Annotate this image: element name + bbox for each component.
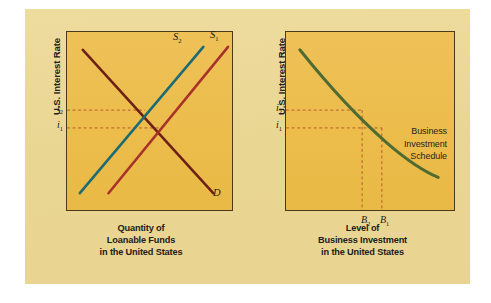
annotation-business-investment-schedule: Business Investment Schedule [351, 125, 447, 163]
annotation-line-3: Schedule [351, 150, 447, 163]
figure-panel: U.S. Interest Rate i2 i1 S2 S1 D Quant [25, 9, 470, 284]
chart-loanable-funds: U.S. Interest Rate i2 i1 S2 S1 D Quant [25, 9, 245, 284]
caption-loanable-funds: Quantity of Loanable Funds in the United… [31, 222, 251, 259]
chart-business-investment: U.S. Interest Rate i2 i1 Business Invest… [247, 9, 470, 284]
curve-label-s2: S2 [173, 31, 182, 44]
y-tick-i2-business-investment: i2 [260, 102, 282, 115]
curve-label-d: D [213, 187, 221, 198]
caption-line-1: Quantity of [31, 222, 251, 234]
y-tick-i1-business-investment: i1 [260, 119, 282, 132]
annotation-line-1: Business [351, 125, 447, 138]
caption-line-2: Business Investment [251, 234, 474, 246]
caption-line-1: Level of [251, 222, 474, 234]
caption-line-2: Loanable Funds [31, 234, 251, 246]
y-tick-i1-loanable-funds: i1 [41, 119, 63, 132]
plot-area-business-investment [285, 31, 455, 211]
caption-business-investment: Level of Business Investment in the Unit… [251, 222, 474, 259]
plot-svg-business-investment [286, 32, 454, 210]
caption-line-3: in the United States [251, 246, 474, 258]
curve-demand [83, 50, 213, 193]
curve-label-s1: S1 [210, 29, 219, 42]
plot-svg-loanable-funds [67, 32, 232, 210]
y-tick-i2-loanable-funds: i2 [41, 102, 63, 115]
caption-line-3: in the United States [31, 246, 251, 258]
annotation-line-2: Investment [351, 138, 447, 151]
curve-supply-1 [108, 47, 228, 193]
plot-area-loanable-funds [66, 31, 233, 211]
